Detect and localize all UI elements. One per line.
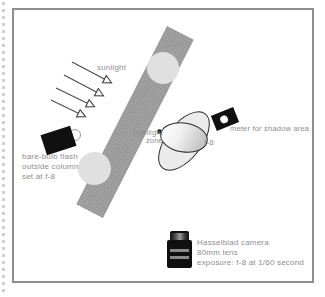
camera-label: Hasselblad camera 80mm lens exposure: f-… — [197, 238, 304, 268]
page-edge-perforation-dots — [2, 2, 5, 295]
flash-label: bare-bulb flash outside column set at f-… — [22, 152, 79, 182]
meter-dial-icon — [218, 114, 228, 124]
camera-label-line1: Hasselblad camera — [197, 238, 304, 248]
camera-body-icon — [167, 240, 192, 268]
flash-label-line2: outside column — [22, 162, 79, 172]
column-light-patch-bottom — [78, 152, 111, 185]
camera-stripe — [170, 256, 189, 259]
flash-label-line1: bare-bulb flash — [22, 152, 79, 162]
subject-aperture-label: f-8 — [204, 138, 214, 148]
flash-label-line3: set at f-8 — [22, 172, 79, 182]
diagram-page: { "diagram": { "title_hint": "photograph… — [0, 0, 325, 297]
highlight-zone-label: highlight zone — [118, 129, 163, 145]
camera-label-line2: 80mm lens — [197, 248, 304, 258]
camera-label-line3: exposure: f-8 at 1/60 second — [197, 258, 304, 268]
camera-stripe — [170, 249, 189, 252]
sunlight-label: sunlight — [97, 63, 126, 73]
highlight-zone-label-line2: zone — [118, 137, 163, 145]
column-light-patch-top — [147, 52, 179, 84]
meter-label: meter for shadow area — [230, 124, 309, 134]
